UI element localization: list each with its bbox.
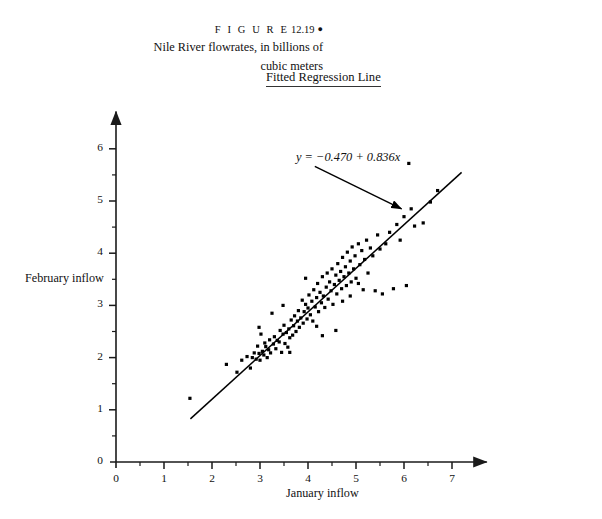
data-point xyxy=(315,325,318,328)
data-point xyxy=(269,351,272,354)
x-tick-label-3: 3 xyxy=(250,472,270,484)
data-point xyxy=(293,314,296,317)
data-point xyxy=(288,336,291,339)
data-point xyxy=(328,280,331,283)
data-point xyxy=(283,342,286,345)
data-point xyxy=(402,215,405,218)
data-point xyxy=(258,359,261,362)
data-point xyxy=(315,296,318,299)
data-point xyxy=(245,355,248,358)
data-point xyxy=(257,326,260,329)
data-point xyxy=(321,334,324,337)
y-tick-label-4: 4 xyxy=(90,245,110,257)
data-point xyxy=(280,351,283,354)
data-point xyxy=(305,317,308,320)
x-tick-label-5: 5 xyxy=(346,472,366,484)
data-point xyxy=(249,366,252,369)
regression-line-group xyxy=(190,172,461,419)
data-point xyxy=(310,300,313,303)
data-point xyxy=(335,292,338,295)
data-point xyxy=(286,346,289,349)
data-point xyxy=(360,249,363,252)
annotation-arrow xyxy=(315,166,402,209)
data-point xyxy=(357,282,360,285)
data-point xyxy=(349,259,352,262)
data-point xyxy=(317,310,320,313)
x-tick-label-1: 1 xyxy=(154,472,174,484)
data-point xyxy=(357,242,360,245)
x-tick-label-4: 4 xyxy=(298,472,318,484)
data-point xyxy=(413,224,416,227)
data-point xyxy=(362,288,365,291)
data-point xyxy=(326,271,329,274)
data-point xyxy=(188,397,191,400)
data-point xyxy=(338,279,341,282)
data-point xyxy=(268,338,271,341)
data-point xyxy=(422,221,425,224)
data-point xyxy=(436,189,439,192)
data-point xyxy=(330,267,333,270)
data-point xyxy=(399,239,402,242)
regression-line xyxy=(190,172,461,419)
data-point xyxy=(340,287,343,290)
data-point xyxy=(316,282,319,285)
data-point xyxy=(344,265,347,268)
ticks-group xyxy=(109,149,452,469)
data-point xyxy=(331,303,334,306)
y-tick-label-6: 6 xyxy=(90,141,110,153)
data-point xyxy=(288,351,291,354)
data-point xyxy=(318,291,321,294)
data-point xyxy=(278,340,281,343)
data-point xyxy=(388,231,391,234)
y-tick-label-0: 0 xyxy=(90,454,110,466)
data-point xyxy=(259,333,262,336)
data-point xyxy=(266,356,269,359)
data-point xyxy=(279,329,282,332)
data-point xyxy=(349,294,352,297)
data-point xyxy=(302,322,305,325)
x-tick-label-0: 0 xyxy=(106,472,126,484)
data-point xyxy=(325,286,328,289)
data-point xyxy=(225,363,228,366)
data-point xyxy=(350,280,353,283)
data-point xyxy=(304,277,307,280)
data-point xyxy=(354,277,357,280)
data-point xyxy=(297,309,300,312)
data-point xyxy=(341,300,344,303)
data-point xyxy=(410,207,413,210)
x-tick-label-2: 2 xyxy=(202,472,222,484)
data-point xyxy=(381,292,384,295)
data-point xyxy=(253,351,256,354)
data-point xyxy=(290,318,293,321)
x-tick-label-6: 6 xyxy=(394,472,414,484)
data-point xyxy=(405,284,408,287)
data-point xyxy=(327,298,330,301)
data-point xyxy=(312,288,315,291)
data-point xyxy=(240,359,243,362)
data-point xyxy=(321,275,324,278)
data-point xyxy=(366,271,369,274)
data-point xyxy=(334,274,337,277)
y-tick-label-3: 3 xyxy=(90,297,110,309)
data-point xyxy=(309,313,312,316)
data-point xyxy=(395,223,398,226)
x-tick-label-7: 7 xyxy=(442,472,462,484)
data-point xyxy=(270,312,273,315)
data-point xyxy=(346,251,349,254)
data-point xyxy=(374,289,377,292)
data-point xyxy=(304,303,307,306)
annotation-arrow-group xyxy=(315,166,402,209)
data-point xyxy=(273,335,276,338)
data-point xyxy=(282,324,285,327)
data-point xyxy=(235,371,238,374)
data-point xyxy=(351,245,354,248)
data-point xyxy=(407,162,410,165)
data-point xyxy=(263,341,266,344)
data-point xyxy=(311,319,314,322)
data-point xyxy=(336,262,339,265)
data-point xyxy=(307,293,310,296)
data-points-group xyxy=(188,162,439,400)
data-point xyxy=(345,284,348,287)
data-point xyxy=(303,310,306,313)
data-point xyxy=(323,306,326,309)
